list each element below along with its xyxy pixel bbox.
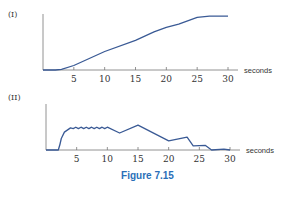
chart-2: 51015202530seconds: [46, 104, 274, 164]
x-tick-label: 30: [224, 154, 236, 164]
x-tick-label: 5: [74, 154, 80, 164]
data-line: [46, 125, 230, 150]
chart-1: 51015202530seconds: [43, 14, 272, 84]
data-line: [43, 16, 228, 70]
x-tick-label: 10: [99, 74, 111, 84]
x-tick-label: 20: [161, 74, 173, 84]
figure-charts: 51015202530seconds51015202530seconds: [0, 0, 295, 170]
x-tick-label: 30: [222, 74, 234, 84]
x-tick-label: 10: [102, 154, 114, 164]
x-tick-label: 25: [194, 154, 206, 164]
x-axis-label: seconds: [246, 146, 274, 155]
x-tick-label: 25: [191, 74, 203, 84]
figure-caption: Figure 7.15: [0, 170, 295, 181]
x-tick-label: 5: [71, 74, 77, 84]
x-axis-label: seconds: [244, 66, 272, 75]
x-tick-label: 20: [163, 154, 175, 164]
x-tick-label: 15: [132, 154, 144, 164]
x-tick-label: 15: [130, 74, 142, 84]
